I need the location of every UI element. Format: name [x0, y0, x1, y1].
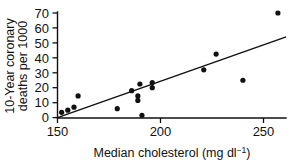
data-point — [137, 81, 142, 86]
x-axis-title-superscript: −1 — [237, 145, 247, 155]
data-point — [135, 98, 140, 103]
y-axis-tick-labels: 0 10 20 30 40 50 60 70 — [35, 6, 49, 126]
regression-line — [58, 37, 287, 118]
x-axis-title-main: Median cholesterol (mg dl — [94, 146, 237, 160]
data-point — [76, 93, 81, 98]
data-point — [201, 67, 206, 72]
x-axis-title-tail: ) — [246, 146, 250, 160]
svg-text:Median cholesterol (mg dl−1): Median cholesterol (mg dl−1) — [94, 145, 251, 160]
x-axis-ticks — [58, 118, 264, 123]
y-tick-label: 30 — [35, 66, 49, 81]
data-point — [240, 78, 245, 83]
data-point — [135, 93, 140, 98]
data-point — [115, 106, 120, 111]
data-point — [214, 51, 219, 56]
y-tick-label: 10 — [35, 95, 49, 110]
y-tick-label: 70 — [35, 6, 49, 21]
y-axis-title: 10-Year coronary deaths per 1000 — [3, 18, 31, 114]
data-point — [150, 85, 155, 90]
x-tick-label: 150 — [47, 124, 69, 139]
y-tick-label: 20 — [35, 80, 49, 95]
y-axis-ticks — [53, 13, 58, 118]
x-axis-tick-labels: 150 200 250 — [47, 124, 275, 139]
y-axis-title-line1: 10-Year coronary — [3, 18, 17, 114]
chart-canvas: 0 10 20 30 40 50 60 70 150 200 250 10-Ye… — [0, 0, 305, 166]
data-point — [275, 10, 280, 15]
data-point — [139, 113, 144, 118]
y-tick-label: 60 — [35, 21, 49, 36]
data-point — [150, 80, 155, 85]
scatter-plot-figure: 0 10 20 30 40 50 60 70 150 200 250 10-Ye… — [0, 0, 305, 166]
x-tick-label: 250 — [253, 124, 275, 139]
y-axis-title-line2: deaths per 1000 — [16, 21, 30, 111]
data-point — [129, 88, 134, 93]
data-points-group — [59, 10, 281, 118]
data-point — [59, 110, 64, 115]
y-tick-label: 50 — [35, 36, 49, 51]
x-axis-title: Median cholesterol (mg dl−1) — [94, 145, 251, 160]
y-tick-label: 40 — [35, 51, 49, 66]
data-point — [71, 105, 76, 110]
data-point — [65, 108, 70, 113]
x-tick-label: 200 — [150, 124, 172, 139]
